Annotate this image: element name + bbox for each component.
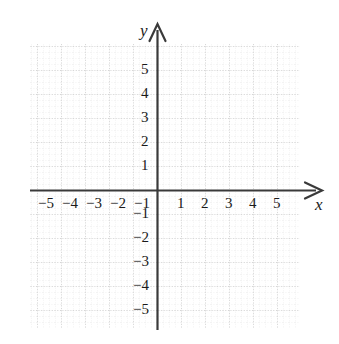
y-tick-label: −2 bbox=[133, 230, 149, 245]
y-tick-label: −3 bbox=[133, 254, 149, 269]
x-tick-label: −2 bbox=[110, 196, 126, 211]
x-tick-label: 3 bbox=[225, 196, 233, 211]
y-tick-label: −5 bbox=[133, 302, 149, 317]
y-tick-label: 5 bbox=[141, 62, 149, 77]
y-tick-label: 3 bbox=[141, 110, 149, 125]
x-tick-label: 4 bbox=[249, 196, 257, 211]
x-tick-label: 5 bbox=[273, 196, 281, 211]
x-tick-label: −4 bbox=[62, 196, 78, 211]
y-tick-label: 2 bbox=[141, 134, 149, 149]
y-tick-label: −4 bbox=[133, 278, 149, 293]
x-tick-label: −5 bbox=[38, 196, 54, 211]
y-tick-label: 1 bbox=[141, 158, 149, 173]
x-tick-label: 1 bbox=[177, 196, 185, 211]
y-axis-label: y bbox=[140, 22, 148, 39]
grid-field bbox=[30, 44, 300, 328]
grid-and-axes bbox=[0, 0, 339, 344]
x-tick-label: −3 bbox=[86, 196, 102, 211]
x-axis-label: x bbox=[315, 196, 323, 213]
y-tick-label: 4 bbox=[141, 86, 149, 101]
y-tick-label: −1 bbox=[133, 206, 149, 221]
coordinate-plane-figure: y x −5 −4 −3 −2 −1 1 2 3 4 5 5 4 3 2 1 −… bbox=[0, 0, 339, 344]
x-tick-label: 2 bbox=[201, 196, 209, 211]
